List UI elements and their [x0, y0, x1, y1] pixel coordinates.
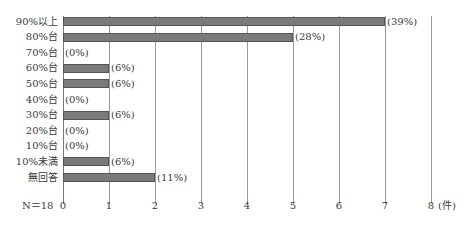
bar-chart: 012345678N＝18(件)90%以上(39%)80%台(28%)70%台(… — [0, 0, 472, 225]
x-axis-unit-label: (件) — [438, 200, 456, 212]
x-tick-label: 2 — [152, 200, 158, 212]
x-tick-label: 3 — [198, 200, 204, 212]
value-label: (0%) — [65, 125, 89, 137]
bar — [63, 111, 109, 120]
gridline — [247, 16, 248, 204]
category-label: 20%台 — [26, 125, 58, 137]
gridline — [155, 16, 156, 204]
value-label: (6%) — [111, 156, 135, 168]
category-label: 無回答 — [28, 172, 58, 184]
gridline — [385, 16, 386, 204]
value-label: (6%) — [111, 62, 135, 74]
category-label: 50%台 — [26, 78, 58, 90]
sample-size-label: N＝18 — [22, 200, 53, 212]
value-label: (0%) — [65, 94, 89, 106]
value-label: (0%) — [65, 47, 89, 59]
x-tick-label: 7 — [382, 200, 388, 212]
x-tick-label: 1 — [106, 200, 112, 212]
bar — [63, 64, 109, 73]
gridline — [293, 16, 294, 204]
category-label: 90%以上 — [16, 16, 58, 28]
category-label: 30%台 — [26, 109, 58, 121]
category-label: 10%台 — [26, 140, 58, 152]
bar — [63, 33, 293, 42]
value-label: (6%) — [111, 109, 135, 121]
bar — [63, 17, 385, 26]
bar — [63, 157, 109, 166]
category-label: 70%台 — [26, 47, 58, 59]
x-tick-label: 5 — [290, 200, 296, 212]
category-label: 40%台 — [26, 94, 58, 106]
value-label: (6%) — [111, 78, 135, 90]
value-label: (39%) — [387, 16, 417, 28]
category-label: 60%台 — [26, 62, 58, 74]
value-label: (28%) — [295, 31, 325, 43]
gridline — [201, 16, 202, 204]
gridline — [339, 16, 340, 204]
x-tick-label: 0 — [60, 200, 66, 212]
gridline — [431, 16, 432, 204]
x-tick-label: 8 — [428, 200, 434, 212]
category-label: 10%未満 — [16, 156, 58, 168]
value-label: (0%) — [65, 140, 89, 152]
bar — [63, 173, 155, 182]
category-label: 80%台 — [26, 31, 58, 43]
value-label: (11%) — [157, 172, 187, 184]
x-tick-label: 6 — [336, 200, 342, 212]
x-tick-label: 4 — [244, 200, 250, 212]
bar — [63, 79, 109, 88]
